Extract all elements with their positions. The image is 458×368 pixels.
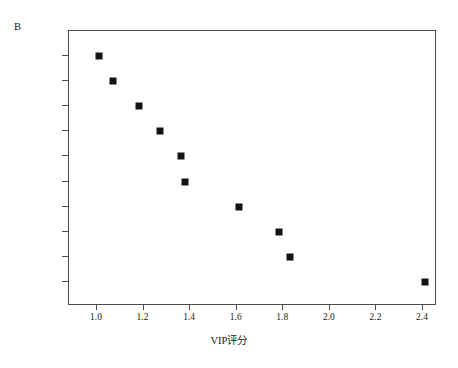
data-point [177, 153, 184, 160]
data-point [110, 78, 117, 85]
x-axis-tick [143, 305, 144, 310]
data-point [422, 279, 429, 286]
data-point [96, 53, 103, 60]
x-axis-tick [375, 305, 376, 310]
data-point [275, 228, 282, 235]
x-axis-tick [422, 305, 423, 310]
x-axis-tick-label: 1.0 [76, 313, 116, 323]
plot-frame [68, 30, 436, 305]
x-axis-tick [96, 305, 97, 310]
x-axis-tick-label: 2.0 [309, 313, 349, 323]
x-axis-tick [236, 305, 237, 310]
data-point [287, 253, 294, 260]
x-axis-title: VIP评分 [0, 336, 458, 347]
data-point [135, 103, 142, 110]
panel-label: B [14, 22, 21, 33]
data-point [182, 178, 189, 185]
x-axis-tick-label: 1.4 [169, 313, 209, 323]
data-point [236, 203, 243, 210]
data-point [156, 128, 163, 135]
x-axis-tick [329, 305, 330, 310]
x-axis-tick [189, 305, 190, 310]
x-axis-tick [282, 305, 283, 310]
x-axis-tick-label: 1.6 [216, 313, 256, 323]
x-axis-tick-label: 2.2 [355, 313, 395, 323]
plot-area [69, 31, 435, 304]
x-axis-tick-label: 1.8 [262, 313, 302, 323]
x-axis-tick-label: 1.2 [123, 313, 163, 323]
x-axis-tick-label: 2.4 [402, 313, 442, 323]
figure-panel-b: B CrMdCaMoMgYbLiBScZr 1.01.21.41.61.82.0… [0, 0, 458, 368]
